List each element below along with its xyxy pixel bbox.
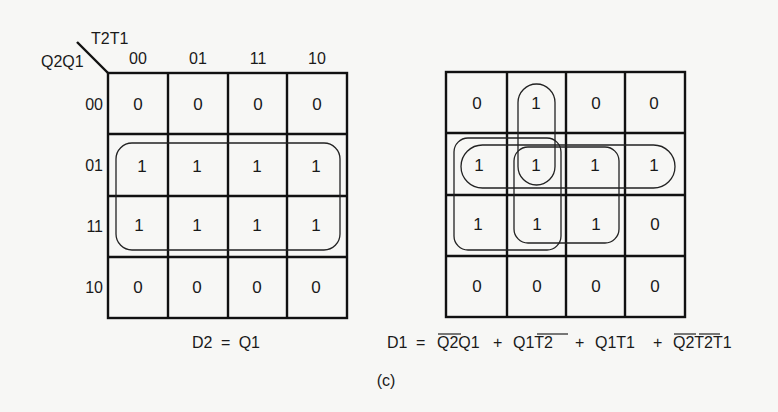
cell: 0 [532,277,541,296]
cell: 1 [531,94,540,113]
equation-d2: D2 = Q1 [192,334,260,351]
cell: 1 [649,156,658,175]
cell: 0 [650,277,659,296]
kmap-d1: 0 1 0 0 1 1 1 1 1 1 1 0 0 0 0 0 [387,72,732,351]
col-header-01: 01 [189,50,207,67]
cell: 0 [591,94,600,113]
row-headers: 00 01 11 10 [85,96,103,296]
svg-text:D1 =: D1 = [387,334,425,351]
cell: 0 [192,278,201,297]
cell: 1 [192,216,201,235]
row-header-10: 10 [85,279,103,296]
cell: 1 [192,157,201,176]
cell: 1 [252,216,261,235]
cell: 0 [252,278,261,297]
eq-equals: = [416,334,425,351]
cell: 1 [591,215,600,234]
cell: 1 [474,156,483,175]
row-header-11: 11 [86,218,103,235]
cell: 0 [133,95,142,114]
row-variable-label: Q2Q1 [41,53,84,70]
col-variable-label: T2T1 [91,30,128,47]
cell: 1 [134,216,143,235]
eq-plus: + [575,334,584,351]
eq-term-1: Q2Q1 [437,334,480,351]
cell: 0 [472,277,481,296]
karnaugh-map-figure: T2T1 Q2Q1 00 01 11 10 00 01 11 10 [0,0,778,412]
equation-d1: D1 = Q2Q1 + Q1T2 + Q1T1 [387,334,732,351]
cell: 0 [472,94,481,113]
cell: 1 [252,157,261,176]
cell: 0 [649,94,658,113]
eq-lhs: D1 [387,334,408,351]
figure-caption: (c) [377,372,396,389]
row-header-00: 00 [85,96,103,113]
kmap-canvas: T2T1 Q2Q1 00 01 11 10 00 01 11 10 [0,0,778,412]
cell: 1 [137,157,146,176]
cell: 1 [531,156,540,175]
kmap-d2: T2T1 Q2Q1 00 01 11 10 00 01 11 10 [41,30,347,351]
cell: 0 [133,278,142,297]
col-headers: 00 01 11 10 [129,50,326,67]
eq-plus: + [493,334,502,351]
cell: 1 [473,215,482,234]
row-header-01: 01 [85,157,103,174]
group-loop-q2bar-q1 [461,145,675,188]
cell: 0 [650,215,659,234]
col-header-10: 10 [308,50,326,67]
col-header-00: 00 [129,50,147,67]
cell: 0 [253,95,262,114]
cell: 1 [311,157,320,176]
col-header-11: 11 [250,50,267,67]
eq-plus: + [653,334,662,351]
cell: 1 [532,215,541,234]
eq-term-3: Q1T1 [595,334,635,351]
cell: 0 [591,277,600,296]
group-loops [454,84,675,250]
cell: 0 [311,278,320,297]
cell: 1 [311,216,320,235]
cell: 0 [193,95,202,114]
eq-term-2: Q1T2 [513,334,553,351]
eq-term-4: Q2T2T1 [673,334,732,351]
cell: 1 [590,156,599,175]
cell: 0 [312,95,321,114]
